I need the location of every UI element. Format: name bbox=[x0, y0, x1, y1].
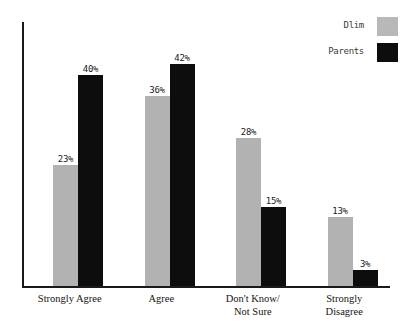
chart-legend: Dlim Parents bbox=[306, 17, 398, 69]
category-label: Agree bbox=[116, 292, 208, 305]
category-label-line: Don't Know/ bbox=[226, 293, 280, 304]
legend-entry-dlim: Dlim bbox=[306, 17, 398, 43]
bar-group: 23%40% bbox=[24, 22, 116, 286]
bar-chart: 23%40%36%42%28%15%13%3% Strongly AgreeAg… bbox=[0, 0, 407, 331]
category-label-line: Disagree bbox=[299, 305, 391, 318]
bar: 28% bbox=[236, 138, 261, 286]
category-label-line: Agree bbox=[148, 293, 174, 304]
x-axis-line bbox=[22, 286, 390, 288]
category-label: StronglyDisagree bbox=[299, 292, 391, 318]
legend-label-dlim: Dlim bbox=[344, 20, 364, 31]
bar-group: 36%42% bbox=[116, 22, 208, 286]
bar: 15% bbox=[261, 207, 286, 286]
bar: 23% bbox=[53, 165, 78, 286]
bar-value-label: 23% bbox=[58, 154, 73, 164]
bar: 40% bbox=[78, 75, 103, 286]
category-label-line: Strongly bbox=[326, 293, 362, 304]
legend-swatch-parents bbox=[377, 43, 398, 62]
category-label: Strongly Agree bbox=[24, 292, 116, 305]
legend-label-parents: Parents bbox=[328, 46, 364, 57]
bar-value-label: 36% bbox=[149, 85, 164, 95]
category-label-line: Not Sure bbox=[207, 305, 299, 318]
legend-swatch-dlim bbox=[377, 17, 398, 36]
bar-value-label: 42% bbox=[174, 53, 189, 63]
legend-entry-parents: Parents bbox=[306, 43, 398, 69]
bar-group: 28%15% bbox=[207, 22, 299, 286]
bar: 42% bbox=[170, 64, 195, 286]
bar-value-label: 3% bbox=[360, 259, 370, 269]
bar: 13% bbox=[328, 217, 353, 286]
bar: 3% bbox=[353, 270, 378, 286]
category-label: Don't Know/Not Sure bbox=[207, 292, 299, 318]
bar-value-label: 13% bbox=[332, 206, 347, 216]
bar-value-label: 28% bbox=[241, 127, 256, 137]
bar-value-label: 15% bbox=[266, 196, 281, 206]
bar-value-label: 40% bbox=[83, 64, 98, 74]
category-label-line: Strongly Agree bbox=[38, 293, 102, 304]
bar: 36% bbox=[145, 96, 170, 286]
category-axis-labels: Strongly AgreeAgreeDon't Know/Not SureSt… bbox=[24, 292, 390, 330]
